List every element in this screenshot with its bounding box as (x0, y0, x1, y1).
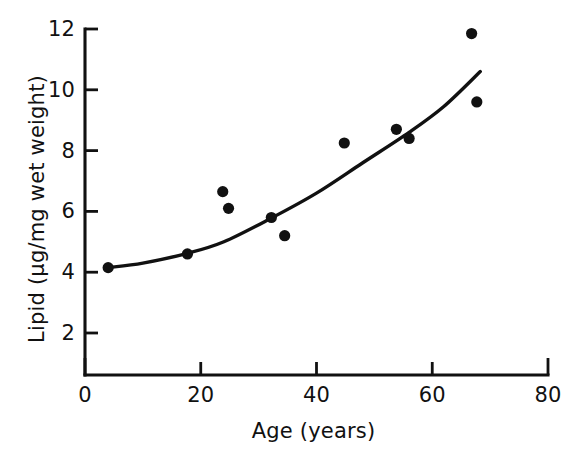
scatter-plot: 24681012020406080 Age (years)Lipid (µg/m… (0, 0, 588, 466)
x-tick-label-0: 0 (78, 383, 92, 407)
data-point-10 (471, 96, 482, 107)
axes-group (85, 29, 548, 375)
x-tick-label-20: 20 (187, 383, 214, 407)
tick-labels-group: 24681012020406080 (48, 17, 562, 407)
tick-marks-group (85, 29, 548, 375)
data-point-3 (223, 203, 234, 214)
data-point-5 (279, 230, 290, 241)
x-tick-label-80: 80 (534, 383, 561, 407)
data-point-2 (217, 186, 228, 197)
y-tick-label-4: 4 (61, 260, 75, 284)
x-tick-label-40: 40 (303, 383, 330, 407)
x-tick-label-60: 60 (419, 383, 446, 407)
fitted-curve-group (108, 72, 480, 268)
data-point-1 (182, 248, 193, 259)
y-tick-label-8: 8 (61, 139, 75, 163)
y-tick-label-10: 10 (48, 78, 75, 102)
fitted-curve (108, 72, 480, 268)
data-point-9 (466, 28, 477, 39)
data-points-group (103, 28, 483, 273)
data-point-7 (391, 124, 402, 135)
x-axis-title: Age (years) (252, 419, 376, 443)
data-point-6 (339, 137, 350, 148)
y-tick-label-12: 12 (48, 17, 75, 41)
data-point-4 (266, 212, 277, 223)
y-tick-label-6: 6 (61, 199, 75, 223)
figure-container: 24681012020406080 Age (years)Lipid (µg/m… (0, 0, 588, 466)
data-point-8 (404, 133, 415, 144)
data-point-0 (103, 262, 114, 273)
y-tick-label-2: 2 (61, 321, 75, 345)
y-axis-title: Lipid (µg/mg wet weight) (25, 75, 49, 343)
